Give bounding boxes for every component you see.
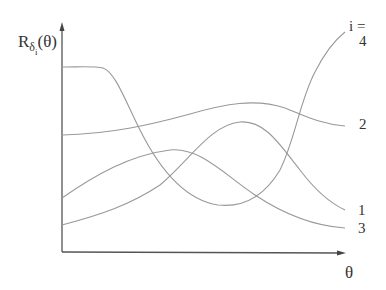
curve-4 xyxy=(62,32,345,205)
y-axis-label-sub: δi xyxy=(29,40,37,54)
y-axis-label-main: R xyxy=(18,32,29,51)
curve-label-1: 1 xyxy=(358,203,366,218)
y-axis-label: Rδi(θ) xyxy=(18,33,57,50)
axes xyxy=(60,22,347,256)
curve-3 xyxy=(62,150,345,228)
x-axis xyxy=(62,252,340,253)
x-axis-label: θ xyxy=(345,264,353,281)
curve-2 xyxy=(62,103,345,135)
y-sub-i: i xyxy=(35,47,38,57)
curves xyxy=(62,32,345,228)
legend-header: i = xyxy=(349,19,365,34)
curve-1 xyxy=(62,122,345,225)
curve-label-4: 4 xyxy=(359,34,367,49)
y-axis-arrow-icon xyxy=(60,22,65,31)
curve-label-2: 2 xyxy=(359,117,367,132)
plot-canvas xyxy=(0,0,386,290)
y-axis-label-arg: (θ) xyxy=(38,32,57,51)
curve-label-3: 3 xyxy=(358,221,366,236)
x-axis-arrow-icon xyxy=(337,251,346,256)
